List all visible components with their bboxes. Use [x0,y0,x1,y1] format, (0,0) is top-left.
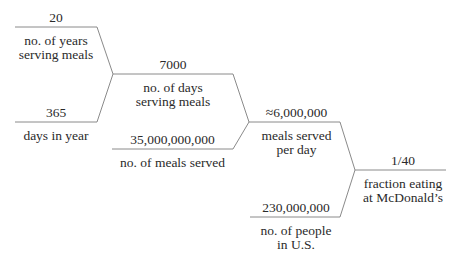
days-in-year-label: days in year [8,128,104,143]
meals-per-day-label-line1: meals served [249,128,344,143]
people-us-label-line1: no. of people [250,223,342,238]
meals-served-value: 35,000,000,000 [112,132,233,147]
years-value: 20 [15,10,97,25]
meals-per-day-label-line2: per day [249,142,344,157]
days-in-year-value: 365 [15,105,97,120]
days-serving-label-line2: serving meals [113,94,233,109]
years-label-line1: no. of years [10,33,102,48]
people-us-label-line2: in U.S. [250,237,342,252]
people-us-value: 230,000,000 [250,200,342,215]
years-label-line2: serving meals [10,47,102,62]
meals-per-day-value: ≈6,000,000 [249,105,344,120]
days-serving-label-line1: no. of days [113,80,233,95]
fraction-value: 1/40 [360,153,446,168]
fraction-label-line2: at McDonald’s [355,190,451,205]
estimation-diagram: 20 no. of years serving meals 365 days i… [0,0,456,257]
meals-served-label: no. of meals served [105,155,240,170]
days-serving-value: 7000 [113,57,233,72]
fraction-label-line1: fraction eating [355,176,451,191]
